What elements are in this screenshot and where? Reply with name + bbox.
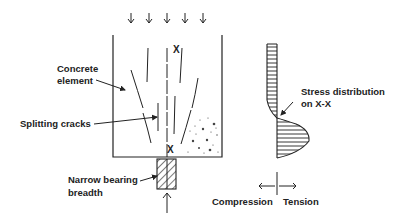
diagram-canvas: X X Concrete element Splitting cracks Na… xyxy=(0,0,405,219)
down-arrow-icon xyxy=(182,13,188,23)
label-narrow-bearing-2: breadth xyxy=(68,187,103,199)
label-concrete-element-2: element xyxy=(57,75,93,87)
compression-tension-axis xyxy=(259,172,296,195)
section-mark-bottom: X xyxy=(167,144,174,156)
leader-concrete-element xyxy=(96,80,125,90)
diagram-graphics xyxy=(0,0,405,219)
label-compression: Compression xyxy=(212,196,273,208)
leader-splitting-cracks xyxy=(94,117,157,124)
label-narrow-bearing-1: Narrow bearing xyxy=(68,174,138,186)
section-mark-top: X xyxy=(173,44,180,56)
down-arrow-icon xyxy=(200,13,206,23)
applied-load-arrows xyxy=(128,13,206,23)
label-splitting-cracks: Splitting cracks xyxy=(20,118,91,130)
down-arrow-icon xyxy=(164,13,170,23)
leader-stress-distribution xyxy=(281,102,293,115)
label-concrete-element-1: Concrete xyxy=(57,63,98,75)
up-arrow-icon xyxy=(163,193,171,213)
label-stress-distribution-1: Stress distribution xyxy=(301,86,385,98)
leader-narrow-bearing xyxy=(140,176,157,181)
splitting-cracks xyxy=(131,48,198,144)
label-stress-distribution-2: on X-X xyxy=(301,98,331,110)
down-arrow-icon xyxy=(146,13,152,23)
down-arrow-icon xyxy=(128,13,134,23)
label-tension: Tension xyxy=(283,196,319,208)
aggregate-texture xyxy=(187,117,218,153)
